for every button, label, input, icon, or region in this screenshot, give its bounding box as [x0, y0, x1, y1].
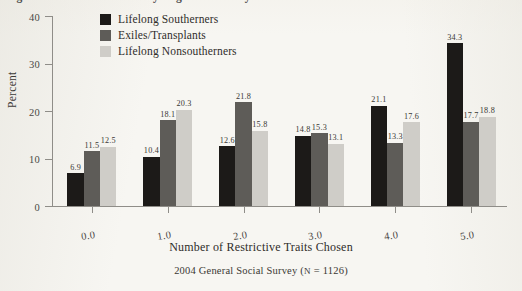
- bar-slot: 21.1: [371, 17, 387, 206]
- bar-slot: 11.5: [84, 17, 100, 206]
- y-axis-tick: 0: [45, 206, 53, 207]
- bar-value-label: 13.3: [388, 132, 403, 141]
- x-axis-tick: [92, 207, 93, 213]
- y-axis-tick-label: 20: [29, 106, 40, 117]
- bar-slot: 17.7: [463, 17, 479, 206]
- legend-label: Exiles/Transplants: [118, 29, 206, 41]
- bar[interactable]: [219, 146, 235, 206]
- bar[interactable]: [311, 133, 327, 206]
- bar[interactable]: [100, 147, 116, 206]
- bar-slot: 34.3: [447, 17, 463, 206]
- bar[interactable]: [143, 157, 159, 206]
- y-axis-tick-label: 0: [34, 201, 40, 212]
- source-note-middle: = 1126): [311, 265, 348, 276]
- bar-slot: 13.1: [328, 17, 344, 206]
- bar-value-label: 15.3: [312, 123, 327, 132]
- source-note: 2004 General Social Survey (N = 1126): [0, 265, 522, 276]
- y-axis-line: [52, 17, 53, 207]
- bar-slot: 21.8: [235, 17, 251, 206]
- y-axis-tick: 40: [45, 16, 53, 17]
- bar-slot: 14.8: [295, 17, 311, 206]
- legend-color-swatch: [100, 46, 111, 57]
- bar-slot: 13.3: [387, 17, 403, 206]
- bar[interactable]: [295, 136, 311, 206]
- bar-slot: 15.8: [252, 17, 268, 206]
- legend-color-swatch: [100, 30, 111, 41]
- bar-slot: 18.8: [479, 17, 495, 206]
- bar[interactable]: [160, 120, 176, 206]
- bar-value-label: 34.3: [447, 33, 462, 42]
- bar-slot: 17.6: [403, 17, 419, 206]
- legend-item[interactable]: Lifelong Nonsoutherners: [100, 45, 237, 57]
- bar-value-label: 21.8: [236, 92, 251, 101]
- bar-value-label: 14.8: [295, 125, 310, 134]
- legend-item[interactable]: Exiles/Transplants: [100, 29, 237, 41]
- y-axis-tick: 20: [45, 111, 53, 112]
- bar-slot: 15.3: [311, 17, 327, 206]
- bar-value-label: 11.5: [84, 141, 99, 150]
- figure-container: Figure ... Restrictive Traits by Regiona…: [0, 0, 522, 291]
- bar-group: 34.317.718.8: [447, 17, 496, 206]
- bar[interactable]: [371, 106, 387, 206]
- y-axis-title: Percent: [6, 71, 18, 108]
- bar-value-label: 15.8: [252, 120, 267, 129]
- cropped-figure-title: Figure ... Restrictive Traits by Regiona…: [0, 0, 522, 9]
- legend: Lifelong SouthernersExiles/TransplantsLi…: [100, 13, 237, 57]
- bar-value-label: 20.3: [176, 99, 191, 108]
- x-axis-tick: [319, 207, 320, 213]
- figure-title-text: Figure ... Restrictive Traits by Regiona…: [6, 0, 251, 2]
- bar-value-label: 6.9: [70, 163, 81, 172]
- bar-value-label: 21.1: [371, 95, 386, 104]
- bar-value-label: 10.4: [144, 146, 159, 155]
- bar[interactable]: [252, 131, 268, 206]
- x-axis-tick: [395, 207, 396, 213]
- bar[interactable]: [328, 144, 344, 206]
- bar[interactable]: [463, 122, 479, 206]
- bar[interactable]: [479, 117, 495, 206]
- bar-slot: 6.9: [67, 17, 83, 206]
- bar-value-label: 13.1: [328, 133, 343, 142]
- bar-value-label: 17.6: [404, 112, 419, 121]
- y-axis-tick-label: 30: [29, 59, 40, 70]
- bar[interactable]: [403, 122, 419, 206]
- bar-group: 21.113.317.6: [371, 17, 420, 206]
- bar[interactable]: [84, 151, 100, 206]
- bar-value-label: 18.1: [160, 110, 175, 119]
- bar[interactable]: [176, 110, 192, 206]
- y-axis-tick: 30: [45, 64, 53, 65]
- legend-color-swatch: [100, 14, 111, 25]
- source-note-n-symbol: N: [304, 266, 311, 276]
- legend-item[interactable]: Lifelong Southerners: [100, 13, 237, 25]
- bar[interactable]: [387, 143, 403, 206]
- x-axis-tick: [244, 207, 245, 213]
- bar[interactable]: [235, 102, 251, 206]
- bar[interactable]: [67, 173, 83, 206]
- bar[interactable]: [447, 43, 463, 206]
- x-axis-tick: [471, 207, 472, 213]
- bar-value-label: 17.7: [463, 111, 478, 120]
- y-axis-tick: 10: [45, 159, 53, 160]
- x-axis-tick: [168, 207, 169, 213]
- source-note-prefix: 2004 General Social Survey (: [174, 265, 304, 276]
- x-axis-title: Number of Restrictive Traits Chosen: [0, 240, 522, 255]
- x-axis-line: [52, 206, 507, 207]
- y-axis-tick-label: 40: [29, 11, 40, 22]
- bar-group: 14.815.313.1: [295, 17, 344, 206]
- bar-value-label: 12.5: [101, 136, 116, 145]
- bar-value-label: 12.6: [220, 136, 235, 145]
- y-axis-tick-label: 10: [29, 154, 40, 165]
- legend-label: Lifelong Southerners: [118, 13, 218, 25]
- bar-value-label: 18.8: [480, 106, 495, 115]
- legend-label: Lifelong Nonsoutherners: [118, 45, 237, 57]
